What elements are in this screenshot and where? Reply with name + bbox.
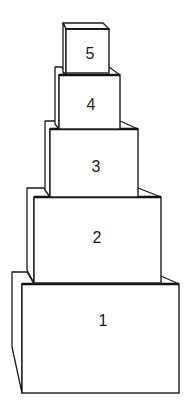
box-3: 3: [45, 121, 138, 197]
box-5: 5: [63, 23, 109, 73]
box-3-label: 3: [92, 158, 101, 175]
box-stack-diagram: 1 2 3 4 5: [0, 0, 191, 412]
box-2-top-right-edge: [138, 188, 161, 197]
box-4-label: 4: [87, 96, 96, 113]
box-5-top-face: [63, 23, 109, 29]
box-2: 2: [27, 188, 161, 283]
box-1: 1: [12, 272, 179, 393]
box-1-label: 1: [99, 312, 108, 329]
box-1-front-face: [22, 284, 179, 393]
box-5-label: 5: [86, 45, 95, 62]
box-4: 4: [55, 67, 120, 129]
box-2-label: 2: [93, 229, 102, 246]
